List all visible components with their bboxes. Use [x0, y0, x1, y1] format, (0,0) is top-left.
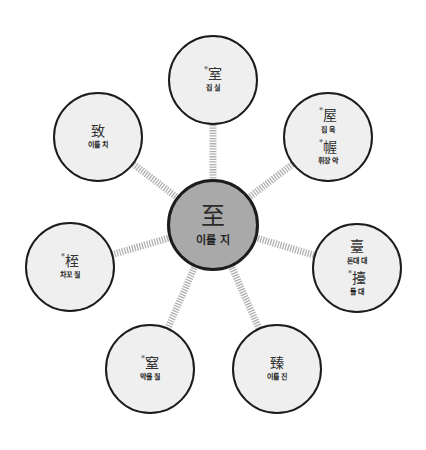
hanja: *窒	[141, 356, 159, 371]
hanja-char: 幄	[323, 139, 337, 155]
entry: *幄 휘장 악	[318, 140, 338, 166]
star-mark: *	[141, 354, 145, 363]
node-top-left: 致 이를 치	[53, 92, 143, 182]
node-center: 至 이를 지	[167, 179, 259, 271]
node-bottom-left: *窒 막을 질	[105, 324, 195, 414]
hanja: *室	[204, 67, 222, 82]
hanja: *擡	[348, 271, 366, 286]
entry: 臺 돈대 대	[347, 239, 367, 265]
star-mark: *	[319, 106, 323, 115]
reading: 이를 치	[88, 142, 108, 150]
entry: *窒 막을 질	[140, 356, 160, 382]
reading: 막을 질	[140, 374, 160, 382]
node-top: *室 집 실	[168, 35, 258, 125]
hanja: 臺	[350, 239, 364, 254]
hanja-char: 桎	[65, 253, 79, 269]
entry: 臻 이를 진	[267, 356, 287, 382]
hanja-char: 致	[91, 123, 105, 139]
entry: *桎 차꼬 질	[60, 254, 80, 280]
node-left: *桎 차꼬 질	[25, 222, 115, 312]
reading: 집 실	[206, 85, 220, 93]
hanja-char: 屋	[323, 107, 337, 123]
entry: *屋 집 옥	[319, 108, 337, 134]
hanja: *幄	[319, 140, 337, 155]
hanja: 致	[91, 124, 105, 139]
star-mark: *	[348, 269, 352, 278]
hanja: *桎	[61, 254, 79, 269]
character-family-diagram: *室 집 실 *屋 집 옥 *幄 휘장 악 臺 돈대 대 *擡 들 대 臻 이를…	[0, 0, 426, 450]
star-mark: *	[204, 65, 208, 74]
reading: 이를 진	[267, 374, 287, 382]
center-reading: 이를 지	[196, 235, 230, 247]
reading: 휘장 악	[318, 158, 338, 166]
hanja-char: 窒	[145, 355, 159, 371]
entry: *室 집 실	[204, 67, 222, 93]
reading: 차꼬 질	[60, 272, 80, 280]
star-mark: *	[319, 138, 323, 147]
center-hanja: 至	[201, 203, 225, 229]
entry: 致 이를 치	[88, 124, 108, 150]
hanja: *屋	[319, 108, 337, 123]
reading: 집 옥	[321, 127, 335, 135]
node-top-right: *屋 집 옥 *幄 휘장 악	[283, 92, 373, 182]
hanja-char: 臻	[270, 355, 284, 371]
reading: 들 대	[350, 289, 364, 297]
hanja-char: 臺	[350, 238, 364, 254]
reading: 돈대 대	[347, 258, 367, 266]
node-right: 臺 돈대 대 *擡 들 대	[312, 223, 402, 313]
node-bottom-right: 臻 이를 진	[232, 324, 322, 414]
star-mark: *	[61, 252, 65, 261]
hanja-char: 室	[208, 66, 222, 82]
hanja: 臻	[270, 356, 284, 371]
entry: *擡 들 대	[348, 271, 366, 297]
hanja-char: 擡	[352, 270, 366, 286]
